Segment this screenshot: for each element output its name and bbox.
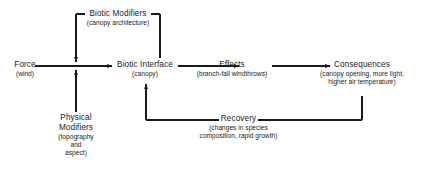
node-physical-modifiers-label-line2: Modifiers — [46, 123, 106, 133]
node-biotic-modifiers: Biotic Modifiers (canopy architecture) — [68, 9, 168, 27]
node-biotic-modifiers-label: Biotic Modifiers — [68, 9, 168, 19]
node-recovery-label: Recovery — [178, 114, 299, 124]
node-effects: Effects (branch-fall windthrows) — [186, 60, 278, 78]
node-force-label: Force — [8, 60, 42, 70]
node-consequences: Consequences (canopy opening, more light… — [296, 60, 428, 86]
node-recovery-sublabel-line2: composition, rapid growth) — [178, 132, 299, 140]
node-force: Force (wind) — [8, 60, 42, 78]
node-consequences-sublabel-line2: higher air temperature) — [296, 78, 428, 86]
node-consequences-label: Consequences — [296, 60, 428, 70]
node-biotic-interface: Biotic Interface (canopy) — [110, 60, 180, 78]
node-biotic-modifiers-sublabel: (canopy architecture) — [68, 19, 168, 27]
node-physical-modifiers-sublabel-line1: (topography — [46, 133, 106, 141]
node-recovery: Recovery (changes in species composition… — [178, 114, 299, 140]
node-effects-sublabel: (branch-fall windthrows) — [186, 70, 278, 78]
node-physical-modifiers-sublabel-line2: and — [46, 141, 106, 149]
node-physical-modifiers-label-line1: Physical — [46, 113, 106, 123]
node-biotic-interface-label: Biotic Interface — [110, 60, 180, 70]
node-recovery-sublabel-line1: (changes in species — [178, 124, 299, 132]
node-consequences-sublabel-line1: (canopy opening, more light, — [296, 70, 428, 78]
node-effects-label: Effects — [186, 60, 278, 70]
node-force-sublabel: (wind) — [8, 70, 42, 78]
node-physical-modifiers-sublabel-line3: aspect) — [46, 149, 106, 157]
node-physical-modifiers: Physical Modifiers (topography and aspec… — [46, 113, 106, 157]
diagram-canvas: Force (wind) Biotic Modifiers (canopy ar… — [0, 0, 432, 175]
node-biotic-interface-sublabel: (canopy) — [110, 70, 180, 78]
